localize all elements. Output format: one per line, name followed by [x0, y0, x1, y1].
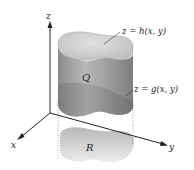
x-axis-label: x: [11, 140, 16, 150]
z-axis-arrow-icon: [48, 21, 53, 28]
label-solid-q: Q: [82, 72, 90, 83]
x-axis: [21, 113, 50, 137]
y-axis-label: y: [168, 142, 175, 152]
z-axis-label: z: [45, 11, 51, 21]
label-bottom-surface: z = g(x, y): [133, 84, 178, 94]
surface-h: [58, 32, 133, 61]
label-region-r: R: [85, 142, 94, 153]
y-axis-arrow-icon: [160, 141, 168, 146]
label-top-surface: z = h(x, y): [121, 26, 166, 36]
solid-region-diagram: z x y z = h(x, y) z = g(x, y) Q R: [0, 0, 194, 170]
x-axis-arrow-icon: [17, 133, 25, 140]
